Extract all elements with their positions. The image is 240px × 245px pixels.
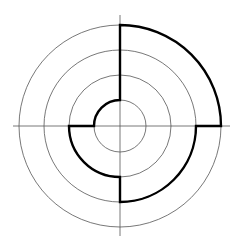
thick-maze-path xyxy=(69,25,221,202)
concentric-maze-diagram xyxy=(0,0,240,245)
